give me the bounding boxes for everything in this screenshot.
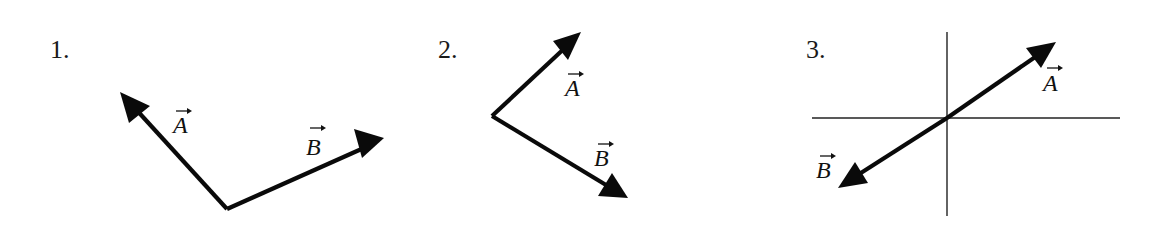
vector-accent-arrowhead-icon [831, 153, 836, 159]
vector-b-arrowhead [598, 173, 628, 198]
vector-accent-arrowhead-icon [321, 125, 326, 131]
panel-3-vector-a [947, 42, 1056, 118]
vector-a-shaft [492, 45, 568, 116]
vector-b-arrowhead [354, 129, 384, 158]
vector-a-shaft [947, 53, 1041, 118]
panel-1-vector-a [120, 92, 227, 209]
vector-accent-arrowhead-icon [609, 141, 614, 147]
vector-label-a: A [171, 112, 188, 138]
panel-1-label-a: A [171, 108, 192, 138]
vector-label-b: B [306, 134, 321, 160]
vector-label-b: B [816, 157, 831, 183]
vector-accent-arrowhead-icon [1058, 65, 1063, 71]
panel-1-label-b: B [306, 125, 326, 160]
panel-2-vector-a [492, 32, 581, 116]
panel-2: 2. A B [438, 32, 628, 198]
panel-3: 3. A B [806, 32, 1120, 216]
vector-label-b: B [594, 145, 609, 171]
panel-3-vector-b [838, 118, 947, 188]
vector-label-a: A [1041, 70, 1058, 96]
panel-2-label-b: B [594, 141, 614, 171]
panel-1: 1. A B [50, 35, 384, 209]
panel-3-label-b: B [816, 153, 836, 183]
panel-1-number: 1. [50, 35, 70, 64]
panel-2-number: 2. [438, 35, 458, 64]
vector-label-a: A [563, 75, 580, 101]
vector-b-shaft [853, 118, 947, 178]
panel-3-number: 3. [806, 35, 826, 64]
vector-diagram-figure: 1. A B 2. [0, 0, 1169, 227]
vector-a-arrowhead [1026, 42, 1056, 68]
vector-b-arrowhead [838, 162, 868, 188]
panel-2-label-a: A [563, 71, 584, 101]
panel-3-label-a: A [1041, 65, 1063, 96]
vector-accent-arrowhead-icon [187, 108, 192, 114]
vector-b-shaft [227, 147, 366, 209]
vector-accent-arrowhead-icon [579, 71, 584, 77]
